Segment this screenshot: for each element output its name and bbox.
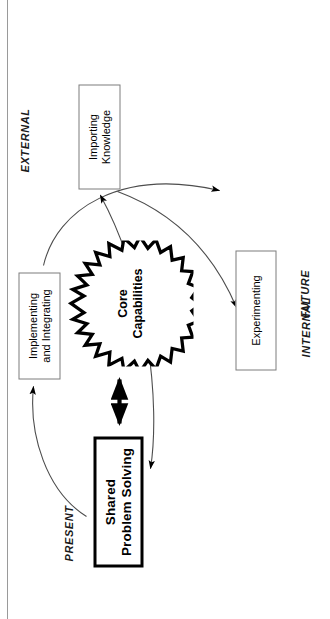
axis-label-external: EXTERNAL [18, 108, 30, 172]
core-capabilities-starburst [67, 240, 193, 366]
axis-label-future-wrapper: FUTURE [299, 270, 311, 318]
node-shared-problem-solving-line1: Shared [102, 478, 117, 524]
node-experimenting-label: Experimenting [249, 275, 262, 345]
node-importing-line2: Knowledge [99, 109, 111, 163]
node-importing-knowledge[interactable]: Importing Knowledge [78, 84, 120, 189]
axis-label-future: FUTURE [299, 270, 311, 318]
node-importing-line1: Importing [86, 114, 98, 160]
node-shared-problem-solving[interactable]: Shared Problem Solving [93, 436, 143, 567]
node-shared-problem-solving-line2: Problem Solving [118, 447, 133, 555]
node-implementing-and-integrating[interactable]: Implementing and Integrating [18, 272, 60, 379]
axis-label-present: PRESENT [62, 505, 74, 561]
node-implementing-line2: and Integrating [39, 289, 51, 362]
diagram-canvas: Core Capabilities Shared Problem Solving… [0, 0, 330, 619]
node-implementing-line1: Implementing [26, 292, 38, 358]
rotated-diagram-wrapper: Core Capabilities Shared Problem Solving… [0, 0, 330, 619]
diagram-page: Core Capabilities Shared Problem Solving… [0, 0, 330, 619]
connector-shared-to-implementing [32, 386, 86, 516]
node-experimenting[interactable]: Experimenting [235, 250, 276, 370]
